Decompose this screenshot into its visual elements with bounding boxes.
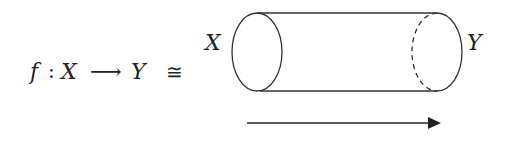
- right-front-arc: [437, 13, 462, 91]
- formula-arrow: ⟶: [90, 59, 122, 84]
- right-hidden-arc: [412, 13, 437, 91]
- cylinder-right-label: Y: [467, 30, 484, 55]
- cylinder-left-label: X: [203, 30, 222, 55]
- cylinder: [232, 13, 462, 91]
- formula-codomain: Y: [131, 59, 148, 84]
- formula: f : X ⟶ Y ≅: [28, 59, 183, 84]
- diagram-canvas: f : X ⟶ Y ≅ X Y: [0, 0, 509, 141]
- arrow-head-icon: [428, 117, 441, 129]
- formula-colon: :: [48, 59, 55, 83]
- formula-iso: ≅: [166, 60, 183, 84]
- direction-arrow: [247, 117, 441, 129]
- left-ellipse: [232, 13, 282, 91]
- formula-f: f: [28, 59, 42, 84]
- formula-domain: X: [59, 59, 78, 84]
